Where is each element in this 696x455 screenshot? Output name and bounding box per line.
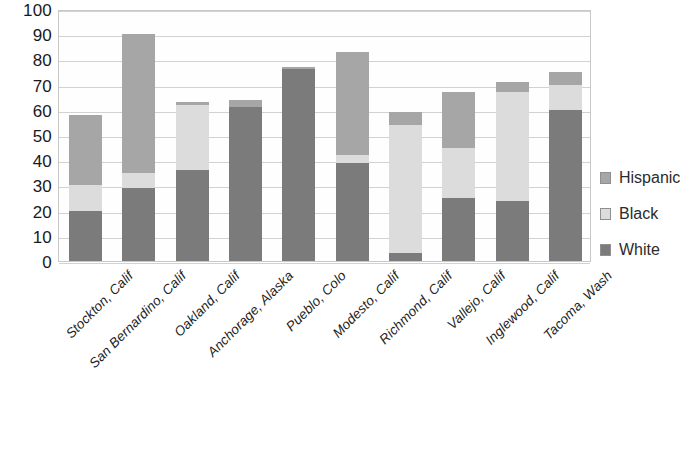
bar-group[interactable]	[442, 9, 475, 261]
plot-area	[58, 10, 591, 262]
bar-segment-white	[122, 188, 155, 261]
stacked-bar-chart: 1009080706050403020100 Stockton, CalifSa…	[0, 0, 696, 455]
bar-segment-hispanic	[176, 102, 209, 105]
bar-segment-hispanic	[282, 67, 315, 70]
y-axis-tick: 10	[0, 229, 52, 246]
bar-segment-black	[176, 105, 209, 171]
bar-group[interactable]	[176, 9, 209, 261]
bar-segment-hispanic	[549, 72, 582, 85]
x-axis-label: Tacoma, Wash	[538, 268, 605, 288]
bar-segment-hispanic	[389, 112, 422, 125]
bar-segment-black	[549, 85, 582, 110]
bar-segment-white	[69, 211, 102, 261]
legend-swatch-icon	[600, 208, 611, 220]
bar-group[interactable]	[122, 9, 155, 261]
bars-layer	[59, 11, 590, 261]
bar-group[interactable]	[229, 9, 262, 261]
bar-segment-black	[496, 92, 529, 200]
bar-segment-hispanic	[496, 82, 529, 92]
bar-segment-black	[442, 148, 475, 198]
bar-group[interactable]	[282, 9, 315, 261]
bar-segment-hispanic	[336, 52, 369, 155]
bar-segment-white	[389, 253, 422, 261]
bar-segment-black	[336, 155, 369, 163]
bar-segment-black	[389, 125, 422, 254]
y-axis-tick: 90	[0, 27, 52, 44]
x-axis-labels: Stockton, CalifSan Bernardino, CalifOakl…	[58, 262, 591, 402]
bar-segment-white	[549, 110, 582, 261]
legend-item-hispanic[interactable]: Hispanic	[600, 160, 696, 196]
y-axis-tick: 60	[0, 103, 52, 120]
bar-segment-white	[282, 69, 315, 261]
bar-group[interactable]	[496, 9, 529, 261]
bar-segment-hispanic	[122, 34, 155, 173]
legend-item-white[interactable]: White	[600, 232, 696, 268]
y-axis-tick: 50	[0, 128, 52, 145]
bar-group[interactable]	[336, 9, 369, 261]
y-axis-tick: 80	[0, 52, 52, 69]
legend-item-black[interactable]: Black	[600, 196, 696, 232]
y-axis-tick: 20	[0, 204, 52, 221]
bar-segment-white	[496, 201, 529, 261]
legend-swatch-icon	[600, 244, 611, 256]
legend-label: White	[619, 241, 660, 259]
y-axis: 1009080706050403020100	[0, 0, 52, 455]
bar-group[interactable]	[69, 9, 102, 261]
bar-segment-hispanic	[69, 115, 102, 186]
bar-group[interactable]	[549, 9, 582, 261]
bar-group[interactable]	[389, 9, 422, 261]
bar-segment-white	[176, 170, 209, 261]
y-axis-tick: 40	[0, 153, 52, 170]
legend-label: Hispanic	[619, 169, 680, 187]
legend-swatch-icon	[600, 172, 611, 184]
chart-legend: HispanicBlackWhite	[600, 160, 696, 268]
bar-segment-hispanic	[442, 92, 475, 147]
bar-segment-white	[229, 107, 262, 261]
bar-segment-black	[69, 185, 102, 210]
legend-label: Black	[619, 205, 658, 223]
bar-segment-hispanic	[229, 100, 262, 108]
y-axis-tick: 100	[0, 2, 52, 19]
y-axis-tick: 70	[0, 78, 52, 95]
bar-segment-black	[122, 173, 155, 188]
bar-segment-white	[336, 163, 369, 261]
y-axis-tick: 30	[0, 178, 52, 195]
y-axis-tick: 0	[0, 254, 52, 271]
x-axis-label-text: Tacoma, Wash	[541, 268, 616, 343]
bar-segment-white	[442, 198, 475, 261]
